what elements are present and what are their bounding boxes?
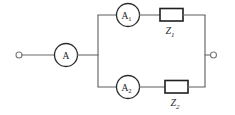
ammeter-branch-1-subscript: 1: [128, 15, 131, 22]
impedance-z1[interactable]: [160, 9, 183, 22]
ammeter-main-letter: A: [63, 51, 70, 61]
right-terminal[interactable]: [211, 52, 217, 58]
impedance-z1-subscript: 1: [171, 31, 175, 39]
circuit-svg: A A1 A2 Z1 Z2: [0, 0, 235, 115]
circuit-diagram: A A1 A2 Z1 Z2: [0, 0, 235, 115]
impedance-z2-subscript: 2: [176, 103, 180, 111]
impedance-z2[interactable]: [165, 81, 188, 94]
impedance-z1-label: Z1: [165, 25, 174, 39]
ammeter-main-label: A: [63, 51, 70, 61]
impedance-z2-label: Z2: [170, 97, 180, 111]
ammeter-branch-2-subscript: 2: [128, 87, 131, 94]
left-terminal[interactable]: [16, 52, 22, 58]
